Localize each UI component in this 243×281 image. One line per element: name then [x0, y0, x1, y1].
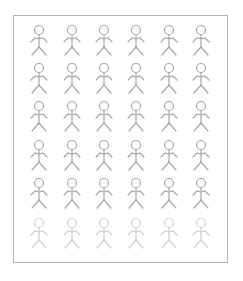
stick-figure-icon	[31, 102, 47, 132]
stick-figure-icon	[64, 102, 80, 132]
stick-figure-icon	[161, 102, 177, 132]
stick-figure-icon	[64, 64, 80, 94]
stick-figure-icon	[193, 219, 209, 249]
stick-figure-icon	[96, 219, 112, 249]
stick-figure-icon	[193, 141, 209, 171]
stick-figure-icon	[96, 64, 112, 94]
stick-figure-icon	[193, 26, 209, 56]
stick-figure-icon	[64, 219, 80, 249]
stick-figure-icon	[31, 26, 47, 56]
stick-figure-icon	[128, 102, 144, 132]
stick-figure-grid	[0, 0, 243, 281]
stick-figure-icon	[96, 26, 112, 56]
stick-figure-icon	[161, 219, 177, 249]
stick-figure-icon	[96, 102, 112, 132]
stick-figure-icon	[193, 179, 209, 209]
stick-figure-icon	[128, 219, 144, 249]
stick-figure-icon	[31, 141, 47, 171]
stick-figure-icon	[161, 64, 177, 94]
stick-figure-icon	[64, 141, 80, 171]
stick-figure-icon	[64, 179, 80, 209]
stick-figure-icon	[193, 64, 209, 94]
stick-figure-icon	[128, 141, 144, 171]
stick-figure-icon	[128, 179, 144, 209]
stick-figure-icon	[161, 179, 177, 209]
stick-figure-icon	[31, 219, 47, 249]
stick-figure-icon	[128, 26, 144, 56]
stick-figure-icon	[128, 64, 144, 94]
stick-figure-icon	[96, 141, 112, 171]
stick-figure-icon	[161, 141, 177, 171]
stick-figure-icon	[64, 26, 80, 56]
stick-figure-icon	[31, 179, 47, 209]
stick-figure-icon	[161, 26, 177, 56]
stick-figure-icon	[31, 64, 47, 94]
stick-figure-icon	[96, 179, 112, 209]
stick-figure-icon	[193, 102, 209, 132]
